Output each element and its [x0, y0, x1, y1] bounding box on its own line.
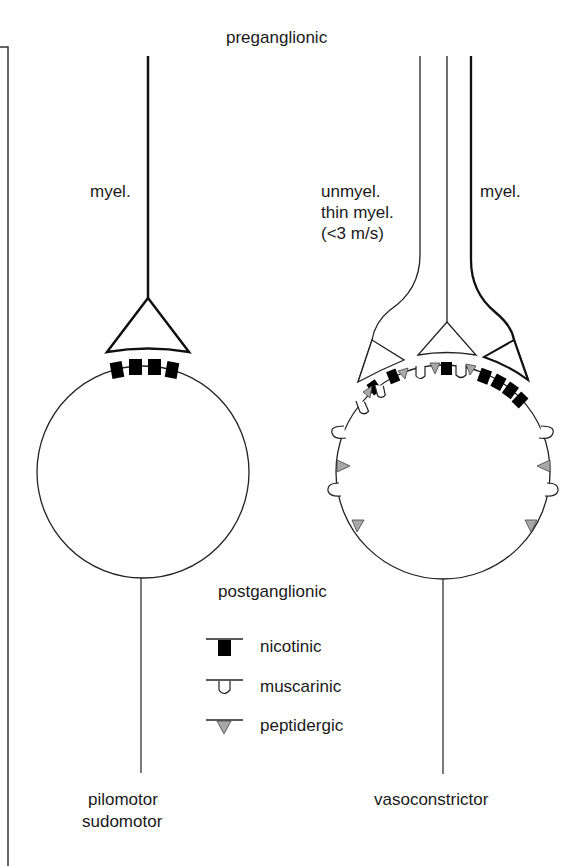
pilomotor-label: pilomotor [88, 790, 158, 810]
legend-nicotinic-symbol [206, 639, 243, 656]
legend-muscarinic-label: muscarinic [260, 677, 341, 697]
preganglionic-label: preganglionic [226, 28, 327, 48]
left-bracket [0, 47, 8, 866]
vasoconstrictor-label: vasoconstrictor [374, 790, 488, 810]
left-myel-label: myel. [90, 182, 131, 202]
diagram-canvas [0, 0, 581, 866]
left-ganglion-cell [37, 366, 249, 578]
sudomotor-label: sudomotor [82, 812, 162, 832]
thin-myel-label: thin myel. [321, 203, 394, 223]
legend-peptidergic-symbol [206, 720, 243, 734]
legend-nicotinic-label: nicotinic [260, 637, 321, 657]
legend-peptidergic-label: peptidergic [260, 716, 343, 736]
unmyel-label: unmyel. [321, 182, 381, 202]
conduction-velocity-label: (<3 m/s) [321, 224, 384, 244]
legend-muscarinic-symbol [206, 680, 243, 694]
left-synaptic-terminal [107, 298, 189, 352]
right-myel-label: myel. [480, 182, 521, 202]
postganglionic-label: postganglionic [218, 582, 327, 602]
